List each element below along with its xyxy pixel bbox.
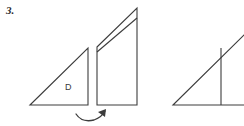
- geometry-figure-canvas: [0, 0, 244, 126]
- sheared-figure-group: [97, 8, 137, 105]
- rotation-arrow-group: [76, 109, 106, 121]
- triangle-D-shape: [30, 48, 88, 105]
- result-triangle-group: [173, 34, 244, 105]
- sheared-interior-diagonal: [97, 18, 137, 52]
- triangle-result-shape: [173, 34, 244, 105]
- original-triangle-group: [30, 48, 88, 105]
